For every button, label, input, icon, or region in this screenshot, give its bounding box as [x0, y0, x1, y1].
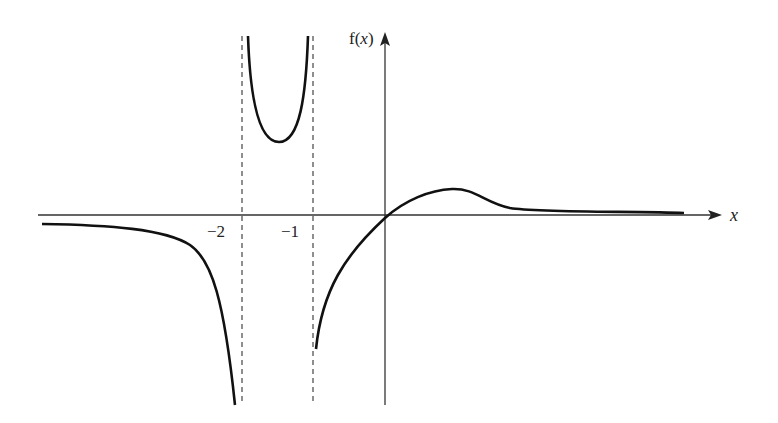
- x-axis-label: x: [729, 205, 738, 225]
- x-tick-label-minus-2: −2: [207, 222, 225, 241]
- curve-left-branch: [42, 224, 235, 405]
- function-graph: −2 −1 x f(x): [0, 0, 778, 423]
- y-axis-label: f(x): [349, 29, 374, 48]
- curve-right-branch: [316, 189, 684, 349]
- x-tick-label-minus-1: −1: [281, 222, 299, 241]
- curve-middle-branch: [248, 36, 308, 142]
